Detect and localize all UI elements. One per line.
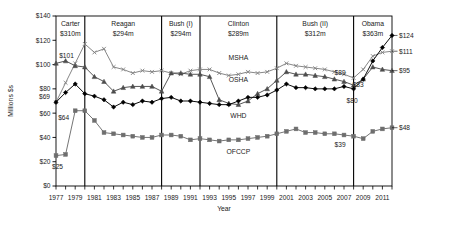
data-point-marker <box>304 131 308 135</box>
x-tick-label: 2009 <box>356 194 371 201</box>
x-tick-label: 1979 <box>68 194 83 201</box>
x-tick-label: 2011 <box>375 194 390 201</box>
data-point-marker <box>159 89 164 93</box>
x-axis-title: Year <box>217 205 231 212</box>
data-point-marker <box>102 79 107 83</box>
point-annotation: $83 <box>353 81 364 88</box>
data-point-marker <box>361 137 365 141</box>
data-point-marker <box>246 137 250 141</box>
x-tick-label: 1983 <box>106 194 121 201</box>
line-chart: $0$20$40$60$80$100$120$140Millions $s197… <box>0 0 449 228</box>
data-point-marker <box>160 133 164 137</box>
president-name: Bush (I) <box>169 20 193 28</box>
data-point-marker <box>284 82 288 86</box>
data-point-marker <box>332 87 336 91</box>
data-point-marker <box>217 139 221 143</box>
y-tick-label: $100 <box>36 61 51 68</box>
data-point-marker <box>83 109 87 113</box>
data-point-marker <box>112 132 116 136</box>
data-point-marker <box>371 65 376 69</box>
point-annotation: $111 <box>399 48 413 55</box>
series-line-ofccp <box>56 111 392 156</box>
president-name: Bush (II) <box>302 20 328 28</box>
data-point-marker <box>179 99 183 103</box>
data-point-marker <box>64 153 68 157</box>
data-point-marker <box>323 87 327 91</box>
x-tick-label: 2005 <box>317 194 332 201</box>
point-annotation: $95 <box>399 67 410 74</box>
series-ofccp <box>54 109 394 158</box>
data-point-marker <box>275 88 279 92</box>
y-tick-label: $20 <box>39 158 50 165</box>
data-point-marker <box>131 102 135 106</box>
data-point-marker <box>294 127 298 131</box>
point-annotation: $80 <box>347 97 358 104</box>
series-label-osha: OSHA <box>229 76 249 83</box>
x-tick-label: 2001 <box>279 194 294 201</box>
data-point-marker <box>131 134 135 138</box>
series-line-osha <box>56 61 392 105</box>
data-point-marker <box>92 94 96 98</box>
data-point-marker <box>256 136 260 140</box>
data-point-marker <box>313 131 317 135</box>
y-tick-label: $120 <box>36 37 51 44</box>
y-tick-label: $140 <box>36 12 51 19</box>
data-point-marker <box>169 133 173 137</box>
x-tick-label: 1995 <box>221 194 236 201</box>
data-point-marker <box>285 129 289 133</box>
data-point-marker <box>381 127 385 131</box>
data-point-marker <box>73 109 77 113</box>
data-point-marker <box>265 93 269 97</box>
data-point-marker <box>352 134 356 138</box>
president-name: Carter <box>61 20 81 27</box>
president-budget: $363m <box>362 30 383 37</box>
data-point-marker <box>169 95 173 99</box>
point-annotation: $69 <box>39 93 50 100</box>
y-tick-label: $40 <box>39 134 50 141</box>
x-tick-label: 2007 <box>337 194 352 201</box>
data-point-marker <box>121 133 125 137</box>
x-tick-label: 1989 <box>164 194 179 201</box>
data-point-marker <box>141 136 145 140</box>
data-point-marker <box>207 101 211 105</box>
president-name: Reagan <box>111 20 135 28</box>
point-annotation: $89 <box>335 69 346 76</box>
data-point-marker <box>198 100 202 104</box>
data-point-marker <box>265 134 269 138</box>
y-tick-label: $0 <box>43 182 51 189</box>
x-tick-label: 1991 <box>183 194 198 201</box>
data-point-marker <box>140 99 144 103</box>
data-point-marker <box>294 85 298 89</box>
data-point-marker <box>179 134 183 138</box>
point-annotation: $124 <box>399 32 414 39</box>
data-point-marker <box>198 137 202 141</box>
president-budget: $294m <box>170 30 191 37</box>
point-annotation: $39 <box>335 141 346 148</box>
x-tick-label: 1985 <box>125 194 140 201</box>
series-label-whd: WHD <box>230 112 246 119</box>
x-tick-label: 2003 <box>298 194 313 201</box>
y-tick-label: $60 <box>39 110 50 117</box>
point-annotation: $101 <box>59 52 74 59</box>
data-point-marker <box>54 154 58 158</box>
data-point-marker <box>236 99 240 103</box>
point-annotation: $64 <box>58 114 69 121</box>
data-point-marker <box>361 68 365 72</box>
president-name: Obama <box>362 20 385 27</box>
data-point-marker <box>188 99 192 103</box>
data-point-marker <box>227 138 231 142</box>
y-tick-label: $80 <box>39 85 50 92</box>
data-point-marker <box>150 100 154 104</box>
data-point-marker <box>150 136 154 140</box>
plot-border <box>56 16 392 186</box>
data-point-marker <box>217 102 221 106</box>
data-point-marker <box>284 69 289 73</box>
data-point-marker <box>102 131 106 135</box>
data-point-marker <box>93 119 97 123</box>
data-point-marker <box>237 138 241 142</box>
president-budget: $289m <box>228 30 249 37</box>
data-point-marker <box>333 132 337 136</box>
data-point-marker <box>189 138 193 142</box>
chart-container: $0$20$40$60$80$100$120$140Millions $s197… <box>0 0 449 228</box>
data-point-marker <box>342 84 346 88</box>
